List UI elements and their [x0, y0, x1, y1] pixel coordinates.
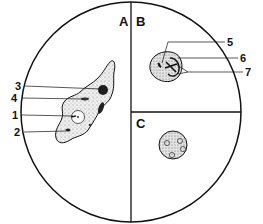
svg-text:3: 3 [15, 80, 21, 92]
section-label-c: C [136, 116, 146, 131]
svg-text:5: 5 [227, 36, 233, 48]
svg-text:6: 6 [240, 52, 246, 64]
svg-text:4: 4 [11, 92, 18, 104]
section-label-a: A [119, 14, 129, 29]
svg-text:2: 2 [14, 126, 20, 138]
section-label-b: B [136, 14, 145, 29]
cyst-c [159, 131, 187, 159]
amoeba-trophozoite [56, 61, 115, 143]
protozoa-life-stages-diagram: A B C 3 4 1 2 [0, 0, 263, 224]
food-vacuole [98, 85, 108, 95]
svg-text:1: 1 [12, 109, 18, 121]
callout-6: 6 [178, 52, 246, 64]
callout-7: 7 [177, 65, 251, 78]
cell-b [150, 52, 182, 82]
svg-text:7: 7 [245, 66, 251, 78]
